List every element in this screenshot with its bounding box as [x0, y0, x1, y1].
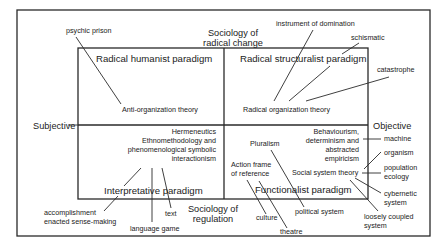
metaphor-loosely-coupled-1: loosely coupled — [364, 212, 414, 221]
metaphor-organism: organism — [384, 148, 414, 157]
metaphor-schismatic: schismatic — [351, 33, 385, 42]
metaphor-text: text — [165, 209, 177, 218]
axis-top-line2: radical change — [203, 38, 263, 48]
connector-instrument-of-domination — [274, 30, 313, 101]
connector-loosely-coupled — [350, 180, 378, 211]
metaphor-population-ecology-1: population — [384, 163, 417, 172]
theory-behaviourism-3: abstracted — [325, 145, 359, 154]
metaphor-accomplishment: accomplishment — [44, 208, 96, 217]
axis-left: Subjective — [33, 121, 75, 131]
theory-ethnomethodology-3: interactionism — [172, 154, 216, 163]
axis-right: Objective — [373, 121, 411, 131]
metaphor-theatre: theatre — [280, 227, 302, 236]
metaphor-catastrophe: catastrophe — [377, 65, 415, 74]
connector-accomplishment-lower — [104, 196, 118, 211]
axis-bottom-line2: regulation — [193, 214, 233, 224]
quadrant-title-interpretative: Interpretative paradigm — [104, 185, 203, 196]
metaphor-cybernetic-2: system — [384, 198, 407, 207]
metaphor-instrument-of-domination: instrument of domination — [276, 19, 355, 28]
metaphor-machine: machine — [384, 134, 411, 143]
metaphor-loosely-coupled-2: system — [364, 221, 387, 230]
axis-top-line1: Sociology of — [208, 28, 258, 38]
metaphor-language-game: language game — [130, 224, 180, 233]
theory-behaviourism-4: empiricism — [325, 154, 359, 163]
metaphor-enacted-sense-making: enacted sense-making — [44, 217, 116, 226]
paradigm-diagram: Sociology of radical change Sociology of… — [0, 0, 446, 246]
quadrant-title-functionalist: Functionalist paradigm — [255, 184, 352, 195]
connector-psychic-prison — [76, 37, 121, 104]
quadrant-title-radical-humanist: Radical humanist paradigm — [96, 53, 212, 64]
theory-action-frame-1: Action frame — [231, 160, 271, 169]
theory-ethnomethodology-1: Ethnomethodology and — [142, 136, 216, 145]
metaphor-population-ecology-2: ecology — [384, 172, 409, 181]
label-radical-organization-theory: Radical organization theory — [243, 105, 331, 114]
connector-accomplishment — [124, 168, 141, 186]
connector-catastrophe — [306, 77, 389, 101]
metaphor-psychic-prison: psychic prison — [66, 26, 112, 35]
metaphor-political-system: political system — [295, 207, 344, 216]
quadrant-title-radical-structuralist: Radical structuralist paradigm — [240, 53, 366, 64]
theory-behaviourism-1: Behaviourism, — [313, 127, 359, 136]
label-anti-organization-theory: Anti-organization theory — [122, 105, 198, 114]
axis-bottom-line1: Sociology of — [188, 204, 238, 214]
metaphor-culture: culture — [256, 213, 278, 222]
connector-organism — [364, 152, 381, 169]
theory-action-frame-2: of reference — [231, 169, 269, 178]
metaphor-cybernetic-1: cybernetic — [384, 189, 417, 198]
theory-social-system: Social system theory — [292, 168, 359, 177]
theory-behaviourism-2: determinism and — [306, 136, 359, 145]
theory-hermeneutics: Hermeneutics — [172, 127, 217, 136]
theory-pluralism: Pluralism — [250, 139, 280, 148]
theory-ethnomethodology-2: phenomenological symbolic — [128, 145, 217, 154]
